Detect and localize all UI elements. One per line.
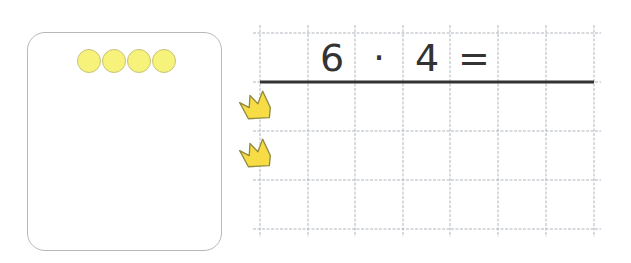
crown-icon (237, 137, 275, 169)
equation-equals: = (450, 34, 498, 82)
equation-factor-2: 4 (403, 34, 451, 82)
equation-factor-1: 6 (308, 34, 356, 82)
equation-operator-multiply: · (355, 34, 403, 82)
crown-icon (237, 89, 275, 121)
